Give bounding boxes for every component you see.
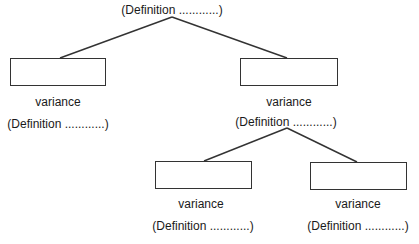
node-definition-right-right: (Definition ............)	[307, 219, 408, 233]
node-box-right-left	[155, 161, 252, 189]
node-label-right-right: variance	[335, 197, 380, 211]
node-box-right-right	[310, 162, 407, 190]
root-definition: (Definition ............)	[121, 3, 222, 17]
edge-right-rightchild	[287, 128, 357, 162]
edge-root-left	[60, 17, 172, 58]
node-definition-left: (Definition ............)	[7, 117, 108, 131]
edge-right-leftchild	[204, 128, 287, 161]
node-box-left	[10, 58, 106, 86]
edge-root-right	[172, 17, 287, 58]
node-box-right	[240, 58, 338, 86]
node-label-right-left: variance	[178, 197, 223, 211]
node-label-right: variance	[266, 95, 311, 109]
node-label-left: variance	[35, 95, 80, 109]
node-definition-right: (Definition ............)	[235, 115, 336, 129]
node-definition-right-left: (Definition ............)	[152, 219, 253, 233]
